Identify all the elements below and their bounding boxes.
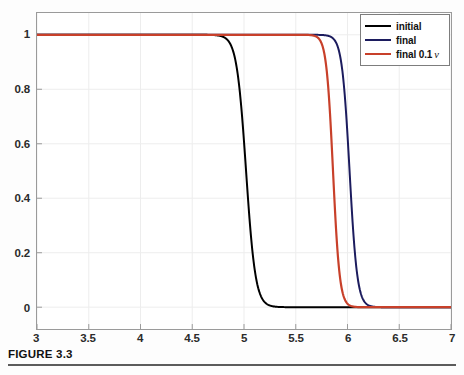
y-tick-label: 0.4 <box>15 192 30 204</box>
legend-label: final <box>396 35 416 46</box>
legend-color-swatch <box>365 25 391 27</box>
x-tick-label: 6.5 <box>392 332 407 344</box>
legend-label: initial <box>396 21 421 32</box>
chart-legend: initialfinalfinal 0.1ν <box>360 14 450 66</box>
y-tick-label: 0.2 <box>15 247 30 259</box>
figure-caption: FIGURE 3.3 <box>8 348 456 360</box>
x-tick-label: 3.5 <box>80 332 95 344</box>
legend-entry: final <box>365 33 444 47</box>
legend-entry: final 0.1ν <box>365 47 444 61</box>
y-tick-label: 0 <box>24 302 30 314</box>
x-tick-label: 6 <box>345 332 351 344</box>
legend-color-swatch <box>365 53 391 55</box>
series-line <box>37 35 451 307</box>
x-tick-label: 5.5 <box>288 332 303 344</box>
figure-container: 33.544.555.566.57 00.20.40.60.81 initial… <box>0 0 464 375</box>
series-line <box>37 35 451 307</box>
series-line <box>37 35 451 307</box>
legend-label: final 0.1ν <box>396 49 439 60</box>
y-tick-label: 0.8 <box>15 83 30 95</box>
caption-rule <box>8 364 456 366</box>
x-tick-label: 4 <box>137 332 143 344</box>
x-tick-label: 3 <box>33 332 39 344</box>
nu-symbol: ν <box>432 49 439 60</box>
legend-entry: initial <box>365 19 444 33</box>
x-tick-label: 5 <box>241 332 247 344</box>
caption-area: FIGURE 3.3 <box>8 348 456 366</box>
x-tick-label: 4.5 <box>184 332 199 344</box>
x-tick-label: 7 <box>449 332 455 344</box>
legend-color-swatch <box>365 39 391 41</box>
y-tick-label: 0.6 <box>15 138 30 150</box>
y-tick-label: 1 <box>24 28 30 40</box>
